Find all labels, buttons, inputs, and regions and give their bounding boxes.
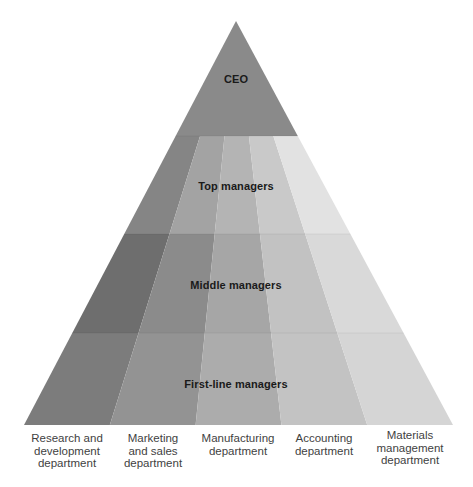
dept-line: Research and	[31, 432, 103, 445]
department-label-manufacturing: Manufacturing department	[202, 432, 275, 457]
dept-line: management	[376, 442, 443, 455]
dept-line: Manufacturing	[202, 432, 275, 445]
department-label-materials-management: Materials management department	[376, 429, 443, 467]
dept-line: Marketing	[124, 432, 182, 445]
tier-label-first-line-managers: First-line managers	[184, 378, 287, 390]
dept-line: department	[376, 454, 443, 467]
dept-line: development	[31, 445, 103, 458]
tier-label-middle-managers: Middle managers	[190, 279, 281, 291]
department-label-marketing-and-sales: Marketing and sales department	[124, 432, 182, 470]
dept-line: department	[295, 445, 353, 458]
dept-line: Accounting	[295, 432, 353, 445]
org-pyramid-diagram: CEO Top managers Middle managers First-l…	[0, 0, 473, 487]
department-label-research-and-development: Research and development department	[31, 432, 103, 470]
dept-line: Materials	[376, 429, 443, 442]
tier-label-top-managers: Top managers	[198, 180, 274, 192]
dept-line: department	[31, 457, 103, 470]
dept-line: department	[202, 445, 275, 458]
tier-label-ceo: CEO	[224, 73, 248, 85]
department-label-accounting: Accounting department	[295, 432, 353, 457]
dept-line: department	[124, 457, 182, 470]
dept-line: and sales	[124, 445, 182, 458]
